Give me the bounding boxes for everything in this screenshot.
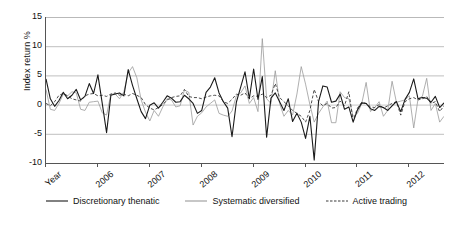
x-tick-label: 2009 <box>219 169 271 215</box>
legend-line-icon <box>46 198 68 204</box>
legend-line-icon <box>185 198 207 204</box>
x-tick-label: 2006 <box>63 169 115 215</box>
x-tick-label: 2012 <box>374 169 426 215</box>
legend-item[interactable]: Discretionary thenatic <box>46 196 160 206</box>
x-tick-label: 2008 <box>167 169 219 215</box>
x-tick-mark <box>149 164 150 167</box>
x-tick-mark <box>356 164 357 167</box>
legend-label: Systematic diversified <box>212 196 299 206</box>
x-tick-mark <box>201 164 202 167</box>
chart-figure: Index return % 151050-5-10 Year200620072… <box>0 0 453 225</box>
x-tick-mark <box>408 164 409 167</box>
x-tick-mark <box>305 164 306 167</box>
x-tick-label: 2007 <box>115 169 167 215</box>
legend-label: Active trading <box>353 196 408 206</box>
legend-line-icon <box>326 198 348 204</box>
legend-item[interactable]: Active trading <box>326 196 408 206</box>
x-tick-mark <box>253 164 254 167</box>
x-tick-label: 2010 <box>271 169 323 215</box>
x-tick-label: 2011 <box>323 169 375 215</box>
legend-label: Discretionary thenatic <box>73 196 160 206</box>
x-axis-tick-labels: Year2006200720082009201020112012 <box>0 0 453 225</box>
legend-item[interactable]: Systematic diversified <box>185 196 299 206</box>
x-tick-mark <box>45 164 46 167</box>
chart-legend: Discretionary thenaticSystematic diversi… <box>0 196 453 206</box>
x-tick-label: Year <box>11 169 63 215</box>
x-tick-mark <box>97 164 98 167</box>
